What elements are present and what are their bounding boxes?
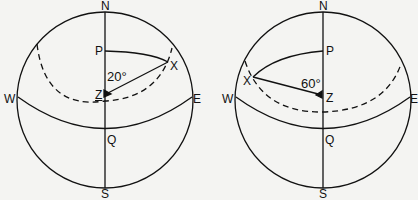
left-label-n: N xyxy=(101,0,110,12)
right-label-n: N xyxy=(319,0,328,12)
right-label-z: Z xyxy=(326,92,333,104)
right-angle-label: 60° xyxy=(301,77,321,90)
left-label-w: W xyxy=(4,93,15,105)
right-label-e: E xyxy=(410,93,418,105)
right-label-w: W xyxy=(222,93,233,105)
left-sphere xyxy=(17,12,193,188)
left-label-x: X xyxy=(170,60,178,72)
right-sphere xyxy=(235,12,411,188)
left-angle-marker xyxy=(104,90,111,97)
right-label-s: S xyxy=(319,188,327,200)
right-label-q: Q xyxy=(325,134,334,146)
right-label-x: X xyxy=(243,75,251,87)
celestial-sphere-figure: N P X 20° Z W E Q S N P X 60° Z W E Q S xyxy=(0,0,418,200)
left-label-e: E xyxy=(193,93,201,105)
right-label-p: P xyxy=(326,45,334,57)
left-label-z: Z xyxy=(95,89,102,101)
left-label-p: P xyxy=(95,45,103,57)
left-hour-arc xyxy=(105,51,168,62)
left-angle-label: 20° xyxy=(107,70,127,83)
left-label-s: S xyxy=(101,188,109,200)
left-label-q: Q xyxy=(107,134,116,146)
right-hour-arc xyxy=(253,51,323,77)
diagram-graphics xyxy=(0,0,418,200)
right-angle-marker xyxy=(316,91,322,98)
